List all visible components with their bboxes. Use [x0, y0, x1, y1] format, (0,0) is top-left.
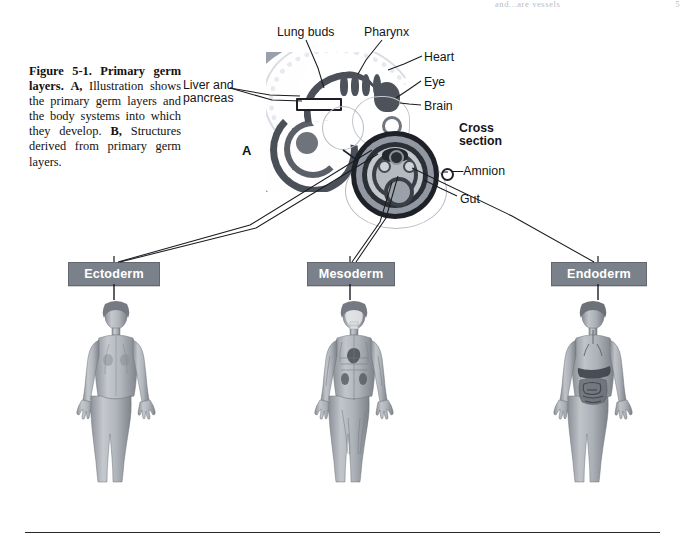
caption-figure-number: Figure 5-1. — [29, 64, 92, 78]
label-amnion: —Amnion — [451, 165, 505, 179]
figure-page: and...are vessels 5 Figure 5-1. Primary … — [0, 0, 684, 546]
label-gut: Gut — [460, 193, 480, 207]
label-liver-pancreas-line2: pancreas — [183, 92, 234, 106]
yolk-sac-spiral-core — [296, 132, 318, 154]
figure-caption: Figure 5-1. Primary germ layers. A, Illu… — [29, 64, 181, 170]
body-figure-ectoderm — [68, 300, 164, 488]
germ-layer-label-endoderm: Endoderm — [567, 267, 631, 281]
cross-section-title-line2: section — [459, 135, 502, 149]
label-heart: Heart — [424, 51, 454, 65]
caption-part-a-letter: A, — [70, 79, 82, 93]
germ-layer-box-endoderm[interactable]: Endoderm — [551, 262, 647, 286]
germ-layer-box-mesoderm[interactable]: Mesoderm — [307, 262, 395, 286]
running-head: and...are vessels 5 — [495, 0, 680, 11]
neural-canal — [389, 150, 404, 165]
germ-layer-label-ectoderm: Ectoderm — [84, 267, 144, 281]
somite-right — [403, 160, 416, 173]
gut-cross-section — [384, 177, 414, 207]
cross-section-diagram — [351, 131, 439, 219]
caption-part-b-letter: B, — [110, 124, 121, 138]
label-eye: Eye — [424, 76, 445, 90]
bottom-rule — [25, 532, 660, 533]
running-head-text: and...are vessels — [495, 0, 560, 9]
body-figure-endoderm — [545, 300, 641, 488]
panel-a-letter: A — [242, 143, 251, 158]
germ-layer-box-ectoderm[interactable]: Ectoderm — [68, 262, 160, 286]
label-lung-buds: Lung buds — [277, 26, 334, 40]
label-pharynx: Pharynx — [364, 26, 409, 40]
page-number: 5 — [675, 0, 680, 9]
label-brain: Brain — [424, 100, 453, 114]
somite-left — [378, 160, 391, 173]
body-figure-mesoderm — [306, 300, 402, 488]
germ-layer-label-mesoderm: Mesoderm — [319, 267, 384, 281]
